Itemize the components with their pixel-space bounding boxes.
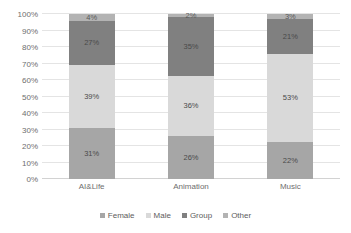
legend-swatch-icon [223,213,228,218]
legend-item[interactable]: Female [100,211,135,220]
bar-segment-label: 27% [84,39,99,47]
bar-segment-label: 3% [285,13,296,21]
legend-label: Female [108,211,135,220]
chart-legend: FemaleMaleGroupOther [0,211,351,220]
y-axis-tick-label: 90% [0,26,38,35]
y-axis-tick-label: 10% [0,158,38,167]
bar-segment-label: 35% [183,43,198,51]
legend-item[interactable]: Other [223,211,251,220]
bar-segment-label: 4% [86,14,97,22]
bar-segment-label: 21% [283,33,298,41]
y-axis-tick-label: 60% [0,76,38,85]
bar-group[interactable]: 26%36%35%2% [141,14,240,179]
x-axis-tick-label: AI&Life [79,182,105,191]
stacked-bar-chart: 0%10%20%30%40%50%60%70%80%90%100% 31%39%… [0,0,351,233]
bar-segment-label: 39% [84,93,99,101]
x-axis: AI&LifeAnimationMusic [42,182,340,198]
bar-segment-label: 53% [283,94,298,102]
legend-item[interactable]: Male [146,211,171,220]
bar-segment[interactable]: 3% [267,14,313,19]
bar-segment[interactable]: 36% [168,76,214,136]
y-axis-tick-label: 100% [0,10,38,19]
x-axis-tick-label: Animation [173,182,209,191]
y-axis: 0%10%20%30%40%50%60%70%80%90%100% [0,14,38,179]
x-axis-tick-label: Music [280,182,301,191]
y-axis-tick-label: 30% [0,125,38,134]
y-axis-tick-label: 70% [0,59,38,68]
plot-area: 31%39%27%4%26%36%35%2%22%53%21%3% [42,14,340,179]
bar-segment[interactable]: 27% [69,21,115,65]
bar-segment[interactable]: 21% [267,19,313,54]
bar-stack: 22%53%21%3% [267,14,313,179]
legend-item[interactable]: Group [182,211,212,220]
legend-label: Group [190,211,212,220]
bar-segment[interactable]: 26% [168,136,214,179]
bar-stack: 31%39%27%4% [69,14,115,179]
chart-title [0,0,351,5]
legend-label: Other [231,211,251,220]
legend-swatch-icon [100,213,105,218]
y-axis-tick-label: 20% [0,142,38,151]
bar-segment[interactable]: 4% [69,14,115,21]
bar-group[interactable]: 22%53%21%3% [241,14,340,179]
y-axis-tick-label: 40% [0,109,38,118]
bar-segment-label: 31% [84,150,99,158]
legend-swatch-icon [146,213,151,218]
bar-segment[interactable]: 39% [69,65,115,129]
bar-segment-label: 26% [183,154,198,162]
bar-segment[interactable]: 22% [267,142,313,179]
bar-series-container: 31%39%27%4%26%36%35%2%22%53%21%3% [42,14,340,179]
y-axis-tick-label: 80% [0,43,38,52]
bar-segment-label: 22% [283,157,298,165]
bar-stack: 26%36%35%2% [168,14,214,179]
legend-label: Male [154,211,171,220]
bar-group[interactable]: 31%39%27%4% [42,14,141,179]
legend-swatch-icon [182,213,187,218]
bar-segment-label: 36% [183,102,198,110]
bar-segment[interactable]: 2% [168,14,214,17]
bar-segment[interactable]: 35% [168,17,214,75]
bar-segment[interactable]: 53% [267,54,313,142]
bar-segment-label: 2% [186,12,197,20]
y-axis-tick-label: 0% [0,175,38,184]
y-axis-tick-label: 50% [0,92,38,101]
bar-segment[interactable]: 31% [69,128,115,179]
